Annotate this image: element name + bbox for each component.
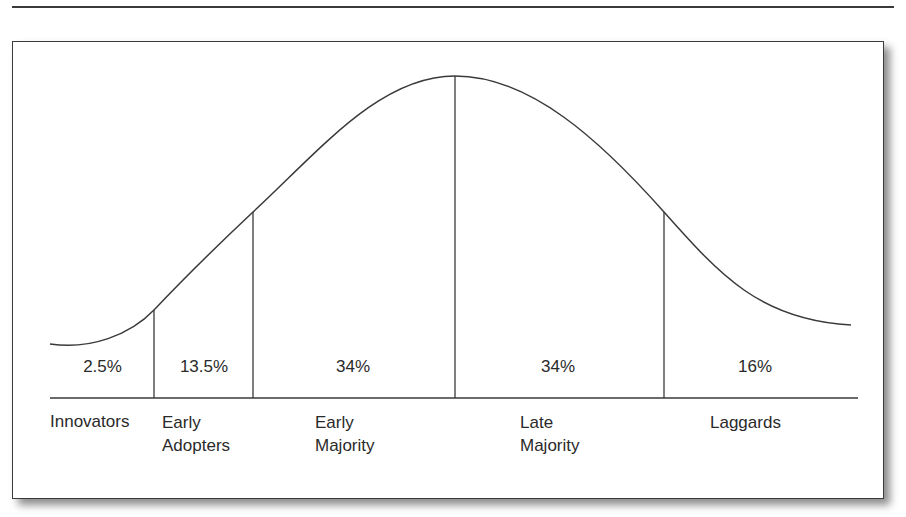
label-early-adopters-line2: Adopters <box>162 434 230 457</box>
label-early-adopters-line1: Early <box>162 411 230 434</box>
label-late-majority: Late Majority <box>520 411 580 457</box>
label-innovators-line1: Innovators <box>50 410 129 433</box>
percent-early-adopters: 13.5% <box>158 357 250 377</box>
label-early-majority-line2: Majority <box>315 434 375 457</box>
label-early-majority: Early Majority <box>315 411 375 457</box>
label-laggards: Laggards <box>710 411 781 434</box>
percent-laggards: 16% <box>705 357 805 377</box>
bell-curve-diagram <box>0 0 906 517</box>
label-late-majority-line1: Late <box>520 411 580 434</box>
label-laggards-line1: Laggards <box>710 411 781 434</box>
label-innovators: Innovators <box>50 410 129 433</box>
percent-late-majority: 34% <box>508 357 608 377</box>
label-early-adopters: Early Adopters <box>162 411 230 457</box>
label-late-majority-line2: Majority <box>520 434 580 457</box>
percent-early-majority: 34% <box>303 357 403 377</box>
percent-innovators: 2.5% <box>60 357 145 377</box>
label-early-majority-line1: Early <box>315 411 375 434</box>
bell-curve <box>50 76 851 345</box>
